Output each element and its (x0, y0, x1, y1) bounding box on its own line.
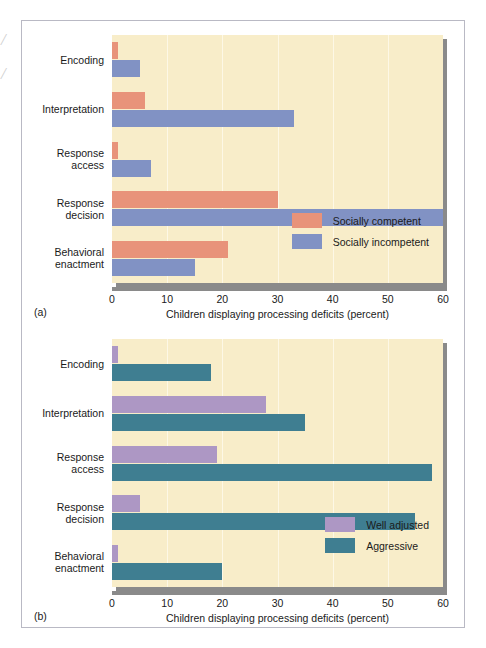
legend-swatch (325, 517, 355, 532)
legend-label: Well adjusted (366, 519, 429, 531)
bar (112, 60, 140, 77)
category-label: Encoding (0, 54, 104, 66)
bar (112, 495, 140, 512)
category-label: Response decision (0, 197, 104, 221)
category-label: Interpretation (0, 407, 104, 419)
bar (112, 259, 195, 276)
plot-area-a: Socially competentSocially incompetent (112, 35, 443, 283)
legend-item: Aggressive (325, 538, 429, 553)
scan-artifact-mark-2: / (1, 64, 6, 84)
plot-canvas-b: Well adjustedAggressive (112, 339, 443, 587)
x-tick-label: 0 (109, 597, 115, 609)
legend-swatch (292, 213, 322, 228)
legend: Socially competentSocially incompetent (292, 213, 429, 255)
legend-swatch (325, 538, 355, 553)
category-label: Interpretation (0, 103, 104, 115)
bar (112, 414, 305, 431)
bar (112, 160, 151, 177)
x-axis-line-a (112, 287, 447, 291)
x-tick-label: 40 (327, 293, 339, 305)
category-label: Behavioral enactment (0, 550, 104, 574)
x-axis-line-b (112, 591, 447, 595)
legend-swatch (292, 234, 322, 249)
legend-item: Socially competent (292, 213, 429, 228)
bar (112, 191, 278, 208)
category-label: Behavioral enactment (0, 246, 104, 270)
x-tick-label: 30 (272, 597, 284, 609)
legend-label: Aggressive (366, 540, 418, 552)
plot-canvas-a: Socially competentSocially incompetent (112, 35, 443, 283)
legend-item: Well adjusted (325, 517, 429, 532)
x-tick-label: 40 (327, 597, 339, 609)
x-axis-title-b: Children displaying processing deficits … (112, 612, 443, 624)
bar (112, 142, 118, 159)
bar (112, 241, 228, 258)
figure-frame: Socially competentSocially incompetent 0… (21, 20, 465, 628)
category-label: Encoding (0, 358, 104, 370)
legend-label: Socially competent (333, 215, 421, 227)
gridline (278, 35, 279, 283)
x-tick-label: 60 (437, 293, 449, 305)
x-tick-label: 0 (109, 293, 115, 305)
bar (112, 545, 118, 562)
bar (112, 346, 118, 363)
scan-artifact-mark-1: / (1, 30, 6, 50)
x-axis-title-a: Children displaying processing deficits … (112, 308, 443, 320)
x-tick-label: 10 (161, 293, 173, 305)
plot-area-b: Well adjustedAggressive (112, 339, 443, 587)
legend: Well adjustedAggressive (325, 517, 429, 559)
bar (112, 464, 432, 481)
panel-tag-a: (a) (34, 306, 47, 318)
category-label: Response decision (0, 501, 104, 525)
chart-panel-a: Socially competentSocially incompetent 0… (22, 21, 466, 325)
chart-panel-b: Well adjustedAggressive 0102030405060 En… (22, 325, 466, 629)
legend-label: Socially incompetent (333, 236, 429, 248)
legend-item: Socially incompetent (292, 234, 429, 249)
bar (112, 563, 222, 580)
bar (112, 42, 118, 59)
category-label: Response access (0, 451, 104, 475)
x-tick-label: 30 (272, 293, 284, 305)
x-tick-label: 20 (216, 293, 228, 305)
x-tick-label: 50 (382, 597, 394, 609)
bar (112, 364, 211, 381)
panel-tag-b: (b) (34, 610, 47, 622)
bar (112, 396, 266, 413)
bar (112, 446, 217, 463)
x-tick-label: 60 (437, 597, 449, 609)
x-tick-label: 50 (382, 293, 394, 305)
bar (112, 110, 294, 127)
bar (112, 92, 145, 109)
x-tick-label: 10 (161, 597, 173, 609)
x-tick-label: 20 (216, 597, 228, 609)
category-label: Response access (0, 147, 104, 171)
